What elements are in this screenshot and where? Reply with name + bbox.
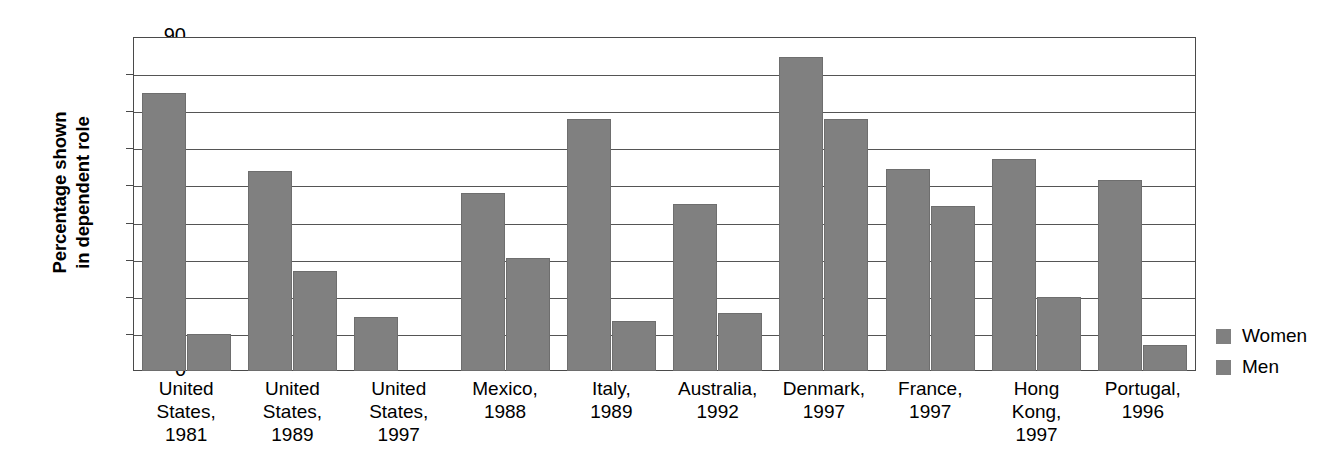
y-axis-title-line-1: Percentage shown	[49, 43, 72, 343]
x-axis-label: UnitedStates,1981	[133, 378, 239, 446]
bar-women	[354, 317, 398, 371]
bar-chart: Percentage shown in dependent role 90807…	[0, 0, 1332, 471]
legend: WomenMen	[1216, 325, 1307, 387]
bar-women	[142, 93, 186, 371]
legend-swatch-icon	[1216, 329, 1231, 344]
bar-women	[1098, 180, 1142, 371]
y-tick-mark	[126, 334, 133, 335]
x-axis-label: UnitedStates,1989	[239, 378, 345, 446]
bar-men	[931, 206, 975, 371]
bar-men	[1037, 297, 1081, 371]
x-axis-label: UnitedStates,1997	[346, 378, 452, 446]
x-axis-label-line: 1981	[133, 424, 239, 447]
y-tick-mark	[126, 260, 133, 261]
legend-swatch-icon	[1216, 360, 1231, 375]
x-axis-label-line: Mexico,	[452, 378, 558, 401]
x-axis-label-line: Australia,	[665, 378, 771, 401]
x-axis-label: Australia,1992	[665, 378, 771, 424]
x-axis-label-line: 1989	[239, 424, 345, 447]
bar-women	[461, 193, 505, 371]
bar-men	[293, 271, 337, 371]
y-axis-title-line-2: in dependent role	[72, 43, 95, 343]
x-axis-label-line: States,	[239, 401, 345, 424]
legend-item-women: Women	[1216, 325, 1307, 347]
x-axis-label-line: Kong,	[983, 401, 1089, 424]
x-axis-label-line: Italy,	[558, 378, 664, 401]
x-axis-label-line: Hong	[983, 378, 1089, 401]
bars-layer	[133, 37, 1196, 371]
legend-label: Women	[1242, 325, 1307, 347]
legend-label: Men	[1242, 356, 1279, 378]
x-axis-label-line: 1989	[558, 401, 664, 424]
x-axis-label-line: 1988	[452, 401, 558, 424]
bar-women	[673, 204, 717, 371]
x-axis-label-line: 1997	[771, 401, 877, 424]
x-axis-label-line: United	[239, 378, 345, 401]
bar-women	[567, 119, 611, 371]
x-axis-label-line: Portugal,	[1090, 378, 1196, 401]
x-axis-label: Denmark,1997	[771, 378, 877, 424]
x-axis-label-line: 1992	[665, 401, 771, 424]
x-axis-label-line: States,	[346, 401, 452, 424]
y-tick-mark	[126, 297, 133, 298]
x-axis-label: HongKong,1997	[983, 378, 1089, 446]
y-tick-mark	[126, 148, 133, 149]
bar-women	[248, 171, 292, 371]
bar-women	[886, 169, 930, 371]
bar-men	[612, 321, 656, 371]
bar-women	[779, 57, 823, 371]
x-axis-label-line: 1997	[983, 424, 1089, 447]
x-axis-label-line: United	[133, 378, 239, 401]
y-axis-title: Percentage shown in dependent role	[49, 43, 94, 343]
x-axis-labels: UnitedStates,1981UnitedStates,1989United…	[133, 378, 1196, 468]
x-axis-label-line: United	[346, 378, 452, 401]
y-tick-mark	[126, 111, 133, 112]
bar-men	[718, 313, 762, 371]
x-axis-label-line: France,	[877, 378, 983, 401]
y-tick-mark	[126, 223, 133, 224]
y-tick-mark	[126, 74, 133, 75]
x-axis-label: France,1997	[877, 378, 983, 424]
x-axis-label: Italy,1989	[558, 378, 664, 424]
x-axis-label-line: 1997	[346, 424, 452, 447]
x-axis-label-line: Denmark,	[771, 378, 877, 401]
x-axis-label-line: States,	[133, 401, 239, 424]
y-tick-mark	[126, 185, 133, 186]
bar-women	[992, 159, 1036, 371]
x-axis-label-line: 1996	[1090, 401, 1196, 424]
bar-men	[1143, 345, 1187, 371]
bar-men	[506, 258, 550, 371]
x-axis-label-line: 1997	[877, 401, 983, 424]
x-axis-label: Mexico,1988	[452, 378, 558, 424]
bar-men	[824, 119, 868, 371]
bar-men	[187, 334, 231, 371]
legend-item-men: Men	[1216, 356, 1307, 378]
x-axis-label: Portugal,1996	[1090, 378, 1196, 424]
